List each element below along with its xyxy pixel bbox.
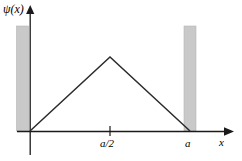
wavefunction-curve: [30, 57, 190, 131]
y-axis-arrowhead: [26, 5, 34, 14]
x-axis-label: x: [219, 137, 224, 148]
x-axis-arrowhead: [224, 127, 234, 135]
plot-canvas: [0, 0, 242, 161]
wavefunction-figure: ψ(x) a/2 a x: [0, 0, 242, 161]
left-potential-wall: [17, 26, 29, 131]
x-tick-label-end: a: [185, 138, 191, 149]
x-tick-label-mid: a/2: [100, 138, 114, 149]
right-potential-wall: [184, 26, 196, 131]
y-axis-label: ψ(x): [3, 3, 24, 15]
